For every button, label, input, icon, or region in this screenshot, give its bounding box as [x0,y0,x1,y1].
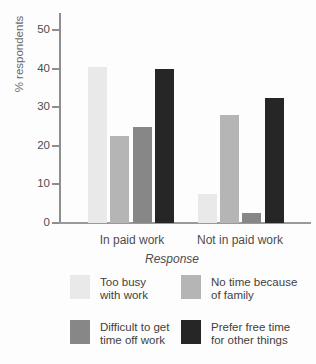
y-tick-mark-0 [52,222,59,224]
y-tick-label-50: 50 [24,23,50,35]
y-tick-mark-20 [52,145,59,147]
bar-prefer-free-time-for-other-things-not-in-paid-work [265,98,284,223]
plot-area [60,13,310,223]
legend-item-no-time-because-of-family: No time because of family [181,275,297,301]
category-label-not-in-paid-work: Not in paid work [186,233,294,247]
x-axis-label: Response [110,252,234,266]
legend-label-prefer-free-time-for-other-things: Prefer free time for other things [211,320,290,346]
legend-item-difficult-to-get-time-off-work: Difficult to get time off work [70,320,169,346]
y-tick-mark-10 [52,183,59,185]
legend-label-line: for other things [211,334,290,347]
y-tick-label-20: 20 [24,139,50,151]
legend-label-difficult-to-get-time-off-work: Difficult to get time off work [100,320,169,346]
legend-swatch-difficult-to-get-time-off-work [70,320,90,344]
y-tick-label-10: 10 [24,177,50,189]
bar-chart: % respondents In paid work Not in paid w… [0,0,316,364]
legend-label-too-busy-with-work: Too busy with work [100,275,148,301]
bar-difficult-to-get-time-off-work-in-paid-work [133,127,152,224]
legend-item-too-busy-with-work: Too busy with work [70,275,148,301]
y-tick-mark-40 [52,68,59,70]
legend-label-line: time off work [100,334,169,347]
y-tick-label-40: 40 [24,62,50,74]
y-tick-mark-30 [52,106,59,108]
legend-label-line: of family [211,289,297,302]
bar-too-busy-with-work-in-paid-work [88,67,107,223]
legend-label-line: No time because [211,276,297,289]
y-axis-label: % respondents [13,6,25,102]
category-label-in-paid-work: In paid work [84,233,180,247]
bar-too-busy-with-work-not-in-paid-work [198,194,217,223]
y-tick-mark-50 [52,29,59,31]
legend-swatch-too-busy-with-work [70,275,90,299]
legend-swatch-no-time-because-of-family [181,275,201,299]
legend-label-line: Too busy [100,276,148,289]
bar-no-time-because-of-family-not-in-paid-work [220,115,239,223]
y-tick-label-30: 30 [24,100,50,112]
bar-no-time-because-of-family-in-paid-work [110,136,129,223]
legend-label-line: with work [100,289,148,302]
bar-difficult-to-get-time-off-work-not-in-paid-work [242,213,261,223]
bar-prefer-free-time-for-other-things-in-paid-work [155,69,174,223]
legend-label-no-time-because-of-family: No time because of family [211,275,297,301]
y-tick-label-0: 0 [24,216,50,228]
legend-label-line: Prefer free time [211,321,290,334]
legend-item-prefer-free-time-for-other-things: Prefer free time for other things [181,320,290,346]
legend-label-line: Difficult to get [100,321,169,334]
legend-swatch-prefer-free-time-for-other-things [181,320,201,344]
